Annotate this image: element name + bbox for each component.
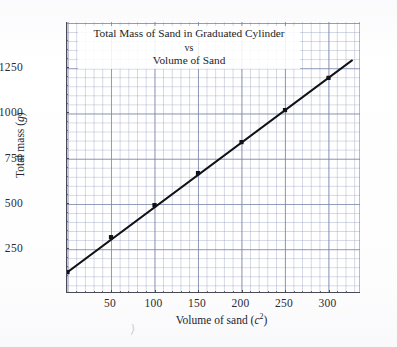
- y-axis-minor-tick: [66, 185, 68, 186]
- y-axis-minor-tick: [66, 49, 68, 50]
- x-axis-minor-tick: [128, 291, 129, 293]
- y-axis-title: Total mass (g): [14, 112, 26, 178]
- x-axis-title-prefix: Volume of sand (: [176, 314, 255, 326]
- x-axis-minor-tick: [302, 291, 303, 293]
- x-tick-label-100: 100: [134, 297, 174, 309]
- x-axis-minor-tick: [137, 291, 138, 293]
- data-point: [66, 270, 70, 274]
- chart-title-line-1: Total Mass of Sand in Graduated Cylinder: [80, 27, 298, 41]
- y-axis-minor-tick: [66, 58, 68, 59]
- data-point: [283, 108, 287, 112]
- y-axis-minor-tick: [66, 257, 68, 258]
- x-axis-minor-tick: [94, 291, 95, 293]
- y-axis-minor-tick: [66, 139, 68, 140]
- y-axis-minor-tick: [66, 94, 68, 95]
- x-tick-label-250: 250: [264, 297, 304, 309]
- chart-title-line-2: vs: [80, 41, 298, 55]
- x-axis-minor-tick: [120, 291, 121, 293]
- y-axis-title-prefix: Total mass (: [14, 122, 26, 178]
- x-axis-minor-tick: [259, 291, 260, 293]
- x-axis-minor-tick: [181, 291, 182, 293]
- y-axis-minor-tick: [66, 194, 68, 195]
- x-tick-label-300: 300: [308, 297, 348, 309]
- y-axis-minor-tick: [66, 85, 68, 86]
- x-axis-title: Volume of sand (c2): [0, 312, 397, 326]
- y-axis-minor-tick: [66, 212, 68, 213]
- data-point: [326, 76, 330, 80]
- x-axis-minor-tick: [85, 291, 86, 293]
- best-fit-line: [66, 60, 352, 273]
- x-axis-minor-tick: [268, 291, 269, 293]
- y-axis-minor-tick: [66, 103, 68, 104]
- y-axis-minor-tick: [66, 167, 68, 168]
- x-axis-minor-tick: [76, 291, 77, 293]
- x-axis-minor-tick: [215, 291, 216, 293]
- x-axis-minor-tick: [207, 291, 208, 293]
- y-tick-label-500: 500: [0, 197, 23, 209]
- y-tick-label-750: 750: [0, 152, 23, 164]
- x-axis-minor-tick: [102, 291, 103, 293]
- x-axis-minor-tick: [250, 291, 251, 293]
- x-axis-minor-tick: [320, 291, 321, 293]
- x-axis-minor-tick: [224, 291, 225, 293]
- x-axis-minor-tick: [146, 291, 147, 293]
- data-point: [196, 171, 200, 175]
- x-axis-minor-tick: [233, 291, 234, 293]
- x-axis-minor-tick: [163, 291, 164, 293]
- y-axis-minor-tick: [66, 176, 68, 177]
- data-point: [239, 140, 243, 144]
- y-axis-minor-tick: [66, 230, 68, 231]
- y-axis-minor-tick: [66, 148, 68, 149]
- y-tick-label-1000: 1000: [0, 106, 23, 118]
- data-point: [109, 235, 113, 239]
- x-axis-minor-tick: [189, 291, 190, 293]
- data-point: [152, 203, 156, 207]
- y-axis-minor-tick: [66, 266, 68, 267]
- y-axis-minor-tick: [66, 76, 68, 77]
- x-axis-minor-tick: [294, 291, 295, 293]
- x-axis-title-suffix: ): [263, 314, 267, 326]
- x-tick-label-50: 50: [90, 297, 130, 309]
- x-axis-minor-tick: [346, 291, 347, 293]
- x-axis-minor-tick: [311, 291, 312, 293]
- x-axis-minor-tick: [337, 291, 338, 293]
- y-axis-minor-tick: [66, 275, 68, 276]
- y-axis-minor-tick: [66, 221, 68, 222]
- stray-scan-mark: ⟩: [129, 322, 136, 338]
- y-tick-label-1250: 1250: [0, 61, 23, 73]
- x-tick-label-150: 150: [177, 297, 217, 309]
- y-axis-minor-tick: [66, 121, 68, 122]
- x-tick-label-200: 200: [221, 297, 261, 309]
- y-axis-minor-tick: [66, 239, 68, 240]
- chart-figure: Total mass (g) 250 500 750 1000 1250 50 …: [0, 0, 397, 347]
- chart-title: Total Mass of Sand in Graduated Cylinder…: [78, 26, 300, 69]
- y-axis-minor-tick: [66, 130, 68, 131]
- x-axis-minor-tick: [276, 291, 277, 293]
- x-axis-minor-tick: [172, 291, 173, 293]
- chart-title-line-3: Volume of Sand: [80, 54, 298, 68]
- y-axis-minor-tick: [66, 40, 68, 41]
- y-tick-label-250: 250: [0, 242, 23, 254]
